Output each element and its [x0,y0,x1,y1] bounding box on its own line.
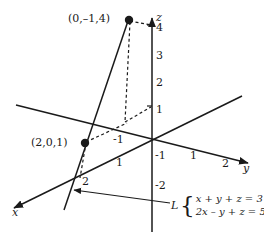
equation-1: x + y + z = 3 [196,193,264,206]
z-tick-label-3: 3 [156,50,163,61]
z-tick-label-1: 1 [156,104,163,115]
z-tick-label-neg1: -1 [155,150,166,161]
point-label-p1: (0,–1,4) [68,13,110,24]
point-label-p2: (2,0,1) [31,137,68,148]
x-tick-label-1: 1 [116,157,123,168]
dashed-p1-to-z-axis [130,21,151,25]
line-equations: { x + y + z = 3 2x – y + z = 5 [180,193,264,218]
y-axis [16,105,248,163]
z-tick-label-neg2: -2 [155,180,166,191]
z-tick-label-4: 4 [156,22,163,33]
z-tick-label-2: 2 [156,77,163,88]
y-tick-label-neg1: -1 [113,134,124,145]
x-axis-label: x [12,207,18,218]
line-name-label: L [171,200,178,211]
equations-brace: { [180,196,195,216]
point-marker-p1 [125,16,133,24]
point-marker-p2 [81,139,89,147]
dashed-p1-vertical-drop [125,22,130,122]
equation-2: 2x – y + z = 5 [196,206,264,219]
dashed-p1-foot-to-z1 [125,107,151,122]
x-tick-label-2: 2 [82,176,89,187]
line-L [64,18,129,210]
coordinate-figure: (0,–1,4) (2,0,1) z y x 4 3 2 1 -1 -2 -1 … [0,0,264,246]
y-tick-label-1: 1 [190,150,197,161]
y-axis-label: y [243,163,249,174]
y-tick-label-2: 2 [222,158,229,169]
